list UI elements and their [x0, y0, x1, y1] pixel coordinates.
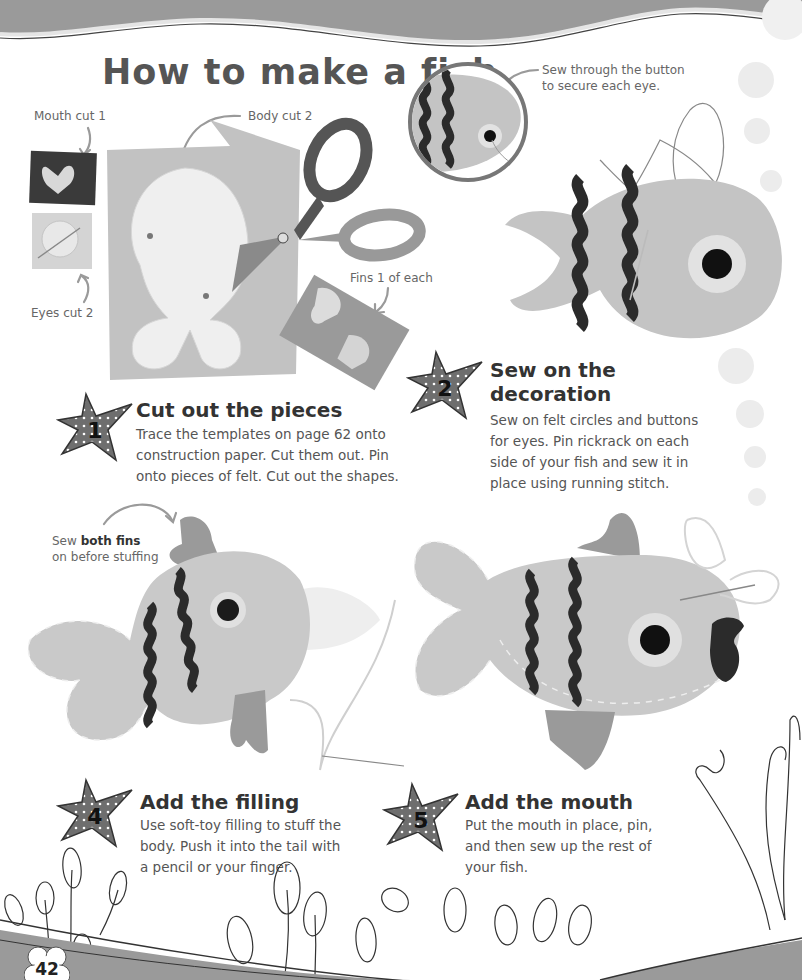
- seaweed-decoration: [0, 680, 802, 980]
- step-1-body: Trace the templates on page 62 onto cons…: [136, 424, 399, 487]
- page-number-badge: 42: [24, 945, 70, 980]
- cut-pieces-photo: [20, 110, 440, 410]
- step-1-star-badge: 1: [56, 390, 134, 464]
- step-number: 1: [56, 390, 134, 464]
- decoration-photo: [400, 60, 800, 370]
- page-number: 42: [24, 959, 70, 979]
- bubble-decoration: [744, 446, 766, 468]
- top-wave-band: [0, 0, 802, 50]
- curved-arrow-icon: [104, 505, 176, 524]
- step-2-title: Sew on the decoration: [490, 358, 616, 406]
- step-2-body: Sew on felt circles and buttons for eyes…: [490, 410, 698, 494]
- step-2-star-badge: 2: [406, 348, 484, 422]
- seaweed-icon: [1, 716, 800, 975]
- step-number: 2: [406, 348, 484, 422]
- step-1-title: Cut out the pieces: [136, 398, 342, 422]
- bubble-decoration: [736, 400, 764, 428]
